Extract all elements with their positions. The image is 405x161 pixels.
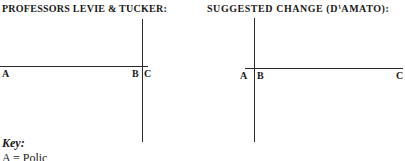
figure2-vertical-line xyxy=(254,18,255,142)
figure2-point-a-label: A xyxy=(240,71,247,81)
scan-speck xyxy=(339,7,341,9)
key-heading: Key: xyxy=(2,137,25,150)
figure2-point-b-label: B xyxy=(257,71,264,81)
key-entry-a-partial: A = Polic xyxy=(2,152,47,161)
figure2-horizontal-timeline xyxy=(245,68,403,69)
figure1-vertical-line xyxy=(142,19,143,142)
figure2-title: SUGGESTED CHANGE (D'AMATO): xyxy=(207,3,389,14)
figure1-point-b-label: B xyxy=(132,69,139,79)
figure2-point-c-label: C xyxy=(396,71,403,81)
figure1-horizontal-timeline xyxy=(0,66,148,67)
figure1-point-a-label: A xyxy=(2,69,9,79)
figure1-title: PROFESSORS LEVIE & TUCKER: xyxy=(2,3,167,14)
scanned-figure-page: PROFESSORS LEVIE & TUCKER: A B C SUGGEST… xyxy=(0,0,405,161)
figure1-point-c-label: C xyxy=(144,69,151,79)
